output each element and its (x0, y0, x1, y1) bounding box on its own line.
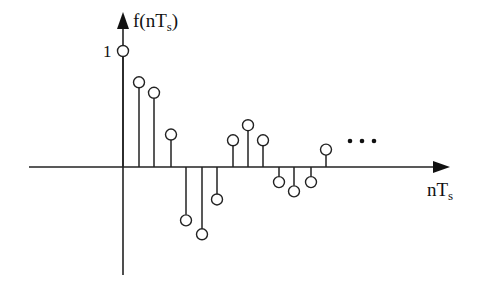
stem-sample (243, 120, 254, 167)
stem-marker-circle-icon (197, 229, 208, 240)
stem-marker-circle-icon (212, 194, 223, 205)
y-axis-arrow-icon (117, 12, 129, 29)
stem-marker-circle-icon (306, 177, 317, 188)
stem-marker-circle-icon (274, 177, 285, 188)
stem-sample (197, 167, 208, 240)
ellipsis-dot-icon (348, 139, 353, 144)
continuation-dots (348, 139, 377, 144)
stem-sample (181, 167, 192, 226)
stem-sample (274, 167, 285, 188)
stem-marker-circle-icon (134, 77, 145, 88)
stem-sample (134, 77, 145, 167)
stem-marker-circle-icon (289, 186, 300, 197)
stem-sample (166, 129, 177, 167)
stem-marker-circle-icon (181, 215, 192, 226)
x-axis-label: nTs (427, 180, 453, 199)
ellipsis-dot-icon (372, 139, 377, 144)
x-axis-arrow-icon (433, 161, 450, 173)
stem-marker-circle-icon (228, 135, 239, 146)
stem-marker-circle-icon (118, 46, 129, 57)
stem-plot (0, 0, 478, 287)
ellipsis-dot-icon (360, 139, 365, 144)
stem-marker-circle-icon (166, 129, 177, 140)
stems (118, 46, 332, 240)
stem-sample (321, 144, 332, 167)
stem-sample (289, 167, 300, 197)
stem-sample (306, 167, 317, 188)
stem-sample (149, 87, 160, 167)
y-axis-label: f(nTs) (133, 11, 178, 30)
unit-tick-label: 1 (103, 43, 112, 60)
stem-sample (118, 46, 129, 168)
stem-marker-circle-icon (258, 135, 269, 146)
stem-marker-circle-icon (149, 87, 160, 98)
stem-sample (258, 135, 269, 167)
axes (29, 12, 450, 275)
stem-sample (212, 167, 223, 205)
stem-marker-circle-icon (321, 144, 332, 155)
stem-sample (228, 135, 239, 167)
stem-marker-circle-icon (243, 120, 254, 131)
